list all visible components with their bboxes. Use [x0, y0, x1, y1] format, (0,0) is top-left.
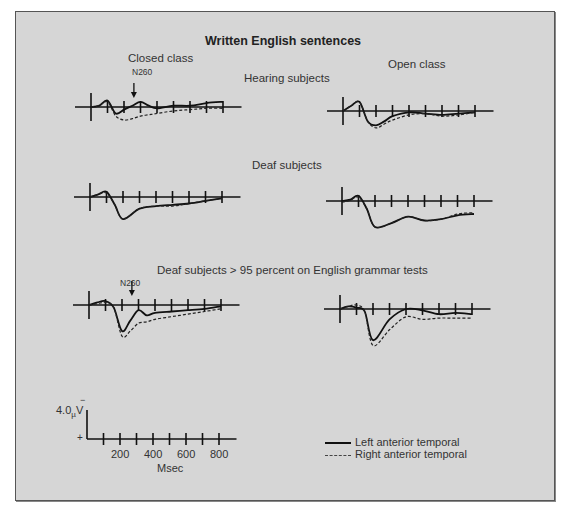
arrowhead-icon	[131, 92, 137, 98]
erp-panel-3	[74, 183, 241, 219]
scale-bar	[87, 410, 237, 445]
legend-item-right: Right anterior temporal	[325, 448, 467, 460]
erp-panel-5	[73, 281, 240, 337]
x-tick-800: 800	[210, 448, 228, 460]
solid-line-swatch	[325, 442, 351, 444]
arrowhead-icon	[129, 290, 135, 296]
erp-panel-6	[324, 295, 491, 346]
erp-plots	[0, 0, 561, 511]
erp-panel-2	[327, 97, 494, 128]
erp-panel-4	[326, 187, 493, 228]
erp-panel-1	[75, 83, 242, 121]
x-axis-label: Msec	[157, 462, 183, 474]
scale-unit-v: V	[76, 404, 83, 416]
x-tick-400: 400	[144, 448, 162, 460]
dashed-line-swatch	[325, 455, 351, 456]
scale-amplitude-value: 4.0	[56, 404, 71, 416]
scale-plus: +	[77, 432, 83, 443]
legend-label-right: Right anterior temporal	[355, 448, 467, 460]
x-tick-600: 600	[177, 448, 195, 460]
legend-label-left: Left anterior temporal	[355, 436, 460, 448]
legend-item-left: Left anterior temporal	[325, 436, 460, 448]
x-tick-200: 200	[111, 448, 129, 460]
scale-amplitude: 4.0µV	[56, 404, 83, 419]
